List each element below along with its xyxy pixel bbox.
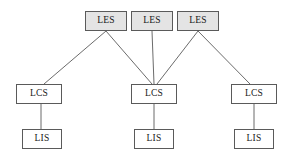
node-lis-2[interactable]: LIS: [134, 129, 174, 149]
hierarchy-diagram: LES LES LES LCS LCS LCS LIS LIS LIS: [0, 0, 293, 163]
node-label: LIS: [35, 134, 50, 144]
node-label: LES: [189, 16, 207, 26]
node-lcs-2[interactable]: LCS: [131, 84, 177, 104]
node-lcs-1[interactable]: LCS: [16, 84, 62, 104]
node-label: LIS: [247, 134, 262, 144]
node-les-1[interactable]: LES: [85, 11, 127, 31]
node-lis-3[interactable]: LIS: [234, 129, 274, 149]
connector-les3-lcs2: [157, 31, 198, 84]
node-lis-1[interactable]: LIS: [22, 129, 62, 149]
node-label: LCS: [145, 89, 163, 99]
node-label: LCS: [245, 89, 263, 99]
connector-les1-lcs1: [44, 31, 106, 84]
node-les-3[interactable]: LES: [177, 11, 219, 31]
node-label: LES: [143, 16, 161, 26]
connector-les3-lcs3: [198, 31, 250, 84]
node-label: LIS: [147, 134, 162, 144]
connector-les1-lcs2: [106, 31, 152, 84]
node-label: LCS: [30, 89, 48, 99]
node-les-2[interactable]: LES: [131, 11, 173, 31]
node-label: LES: [97, 16, 115, 26]
connector-les2-lcs2: [152, 31, 154, 84]
node-lcs-3[interactable]: LCS: [231, 84, 277, 104]
